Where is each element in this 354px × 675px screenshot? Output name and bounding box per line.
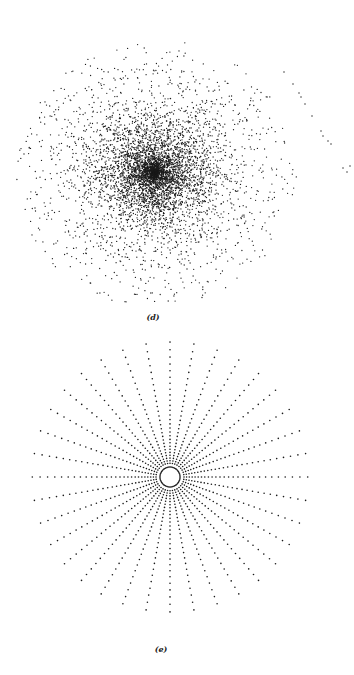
panel-e-label: (e) (155, 644, 168, 654)
panel-e-radial-rays (32, 341, 309, 612)
figure-canvas (0, 0, 354, 675)
panel-d-label: (d) (146, 312, 159, 322)
panel-d-scatter-cloud (16, 42, 350, 302)
